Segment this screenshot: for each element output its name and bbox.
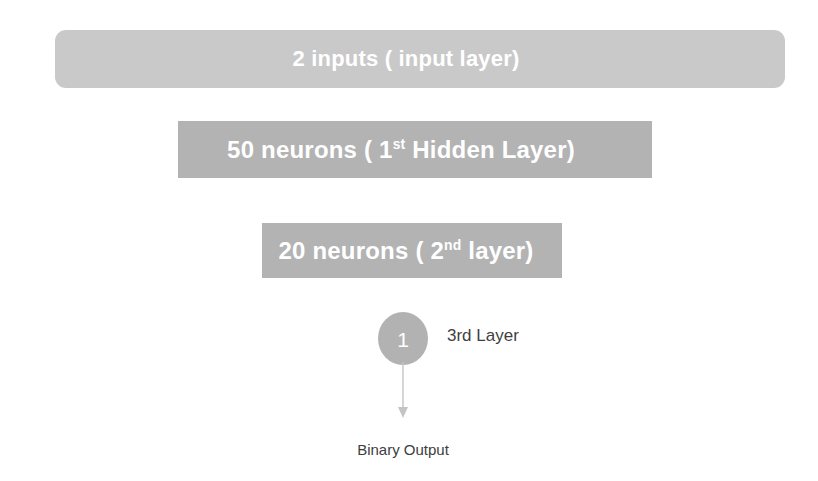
layer-bar-hidden-1-label-suffix: Hidden Layer) [405, 136, 575, 163]
layer-bar-hidden-1: 50 neurons ( 1st Hidden Layer) [178, 121, 652, 178]
layer-bar-hidden-2-label: 20 neurons ( 2nd layer) [278, 237, 533, 265]
layer-bar-input-label: 2 inputs ( input layer) [292, 46, 519, 72]
layer-bar-hidden-2-label-suffix: layer) [461, 237, 533, 264]
layer-bar-hidden-1-label: 50 neurons ( 1st Hidden Layer) [227, 136, 575, 164]
layer-bar-hidden-2-label-superscript: nd [444, 237, 461, 253]
third-layer-label: 3rd Layer [447, 326, 519, 346]
layer-bar-hidden-2: 20 neurons ( 2nd layer) [262, 223, 562, 278]
layer-bar-input: 2 inputs ( input layer) [55, 30, 785, 88]
neural-network-diagram: 2 inputs ( input layer) 50 neurons ( 1st… [0, 0, 818, 481]
binary-output-label: Binary Output [0, 441, 806, 458]
layer-bar-hidden-2-label-prefix: 20 neurons ( 2 [278, 237, 444, 264]
arrow-down-icon [390, 362, 416, 420]
layer-bar-hidden-1-label-superscript: st [393, 136, 406, 152]
output-neuron-value: 1 [397, 328, 409, 352]
layer-bar-hidden-1-label-prefix: 50 neurons ( 1 [227, 136, 393, 163]
arrow-head [398, 407, 408, 418]
output-neuron-node: 1 [378, 312, 428, 365]
